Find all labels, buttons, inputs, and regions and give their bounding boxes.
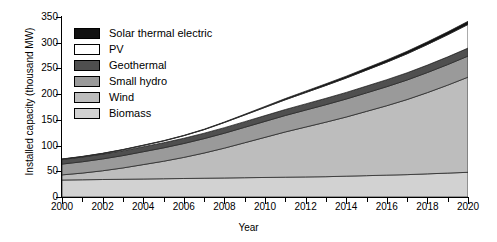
y-tick-mark — [56, 94, 62, 95]
y-tick-label: 50 — [22, 165, 58, 176]
y-tick-mark — [56, 146, 62, 147]
legend-item: Geothermal — [74, 58, 212, 73]
legend-item: PV — [74, 42, 212, 57]
y-tick-mark — [56, 68, 62, 69]
legend-label: Small hydro — [109, 76, 167, 87]
legend-label: Wind — [109, 92, 134, 103]
y-tick-mark — [56, 17, 62, 18]
legend-item: Solar thermal electric — [74, 26, 212, 41]
x-tick-mark — [306, 198, 307, 204]
y-tick-mark — [56, 43, 62, 44]
y-tick-label: 300 — [22, 37, 58, 48]
legend-label: Geothermal — [109, 60, 166, 71]
x-tick-mark — [367, 198, 368, 202]
x-tick-mark — [82, 198, 83, 202]
x-tick-mark — [285, 198, 286, 202]
legend-label: PV — [109, 44, 124, 55]
y-tick-label: 250 — [22, 62, 58, 73]
legend-swatch — [74, 44, 100, 55]
y-tick-label: 100 — [22, 140, 58, 151]
x-tick-mark — [448, 198, 449, 202]
legend-swatch — [74, 60, 100, 71]
legend-label: Biomass — [109, 108, 151, 119]
x-tick-mark — [164, 198, 165, 202]
y-tick-label: 350 — [22, 11, 58, 22]
y-tick-mark — [56, 171, 62, 172]
chart-legend: Solar thermal electricPVGeothermalSmall … — [74, 26, 212, 122]
y-tick-label: 150 — [22, 114, 58, 125]
legend-swatch — [74, 76, 100, 87]
x-axis-title: Year — [0, 222, 497, 233]
x-tick-mark — [62, 198, 63, 204]
x-tick-mark — [103, 198, 104, 204]
x-tick-mark — [387, 198, 388, 204]
x-tick-mark — [468, 198, 469, 204]
x-tick-mark — [143, 198, 144, 204]
legend-swatch — [74, 108, 100, 119]
x-tick-mark — [427, 198, 428, 204]
x-tick-mark — [326, 198, 327, 202]
x-tick-mark — [123, 198, 124, 202]
legend-item: Wind — [74, 90, 212, 105]
x-tick-mark — [204, 198, 205, 202]
x-tick-mark — [224, 198, 225, 204]
x-tick-mark — [245, 198, 246, 202]
legend-swatch — [74, 92, 100, 103]
renewable-capacity-area-chart: Installed capacity (thousand MW) Year 05… — [0, 0, 497, 242]
y-tick-mark — [56, 120, 62, 121]
x-tick-mark — [184, 198, 185, 204]
legend-item: Biomass — [74, 106, 212, 121]
legend-label: Solar thermal electric — [109, 28, 212, 39]
x-tick-mark — [265, 198, 266, 204]
x-tick-mark — [407, 198, 408, 202]
x-tick-mark — [346, 198, 347, 204]
legend-swatch — [74, 28, 100, 39]
y-tick-label: 200 — [22, 88, 58, 99]
legend-item: Small hydro — [74, 74, 212, 89]
